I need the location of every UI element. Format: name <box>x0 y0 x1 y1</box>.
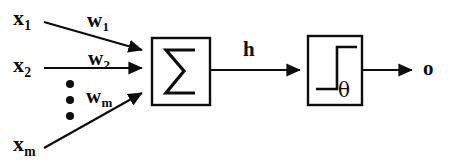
input-label-x1: x1 <box>13 7 31 29</box>
ellipsis-dot <box>66 80 74 88</box>
weight-label-wm: wm <box>86 86 112 107</box>
input-subscript-x2: 2 <box>24 65 31 80</box>
ellipsis-dot <box>66 96 74 104</box>
summation-block <box>152 38 210 105</box>
weight-label-w1: w1 <box>87 10 109 31</box>
neuron-diagram: x1 x2 xm w1 w2 wm h o θ <box>0 0 450 165</box>
threshold-label-theta: θ <box>338 80 350 100</box>
weight-subscript-wm: m <box>101 95 112 110</box>
input-subscript-x1: 1 <box>24 18 31 33</box>
input-subscript-xm: m <box>24 144 35 159</box>
ellipsis-dot <box>66 112 74 120</box>
diagram-canvas <box>0 0 450 165</box>
input-label-xm: xm <box>13 133 35 155</box>
hidden-signal-label: h <box>243 39 255 60</box>
input-label-x2: x2 <box>13 54 31 76</box>
weight-subscript-w2: 2 <box>103 57 110 72</box>
vertical-ellipsis-icon <box>66 80 74 120</box>
output-signal-label: o <box>423 58 434 79</box>
weight-subscript-w1: 1 <box>102 19 109 34</box>
weight-label-w2: w2 <box>88 48 110 69</box>
